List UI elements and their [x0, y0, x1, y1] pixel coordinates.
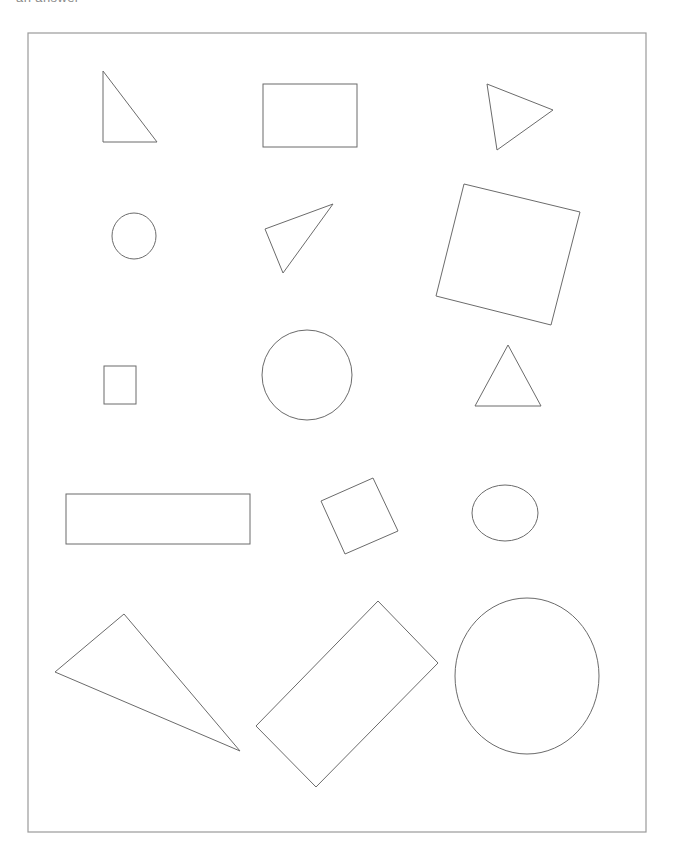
shape-rectangle-large-rotated: [256, 601, 438, 787]
shapes-worksheet-page: an answer: [0, 0, 675, 859]
shape-triangle-pointing-right: [487, 84, 553, 150]
shape-square-small-rotated: [321, 478, 398, 554]
shape-rectangle-horizontal-medium: [263, 84, 357, 147]
shape-circle-small: [112, 213, 156, 259]
shapes-svg: [0, 0, 675, 859]
shape-rectangle-small-vertical: [104, 366, 136, 404]
figure-canvas: [0, 0, 675, 859]
shape-triangle-isosceles-upright: [475, 345, 541, 406]
shape-circle-large: [262, 330, 352, 420]
page-border-rectangle: [28, 33, 646, 832]
shape-ellipse-large: [455, 598, 599, 754]
shape-right-triangle-small: [103, 71, 157, 142]
shape-rectangle-wide-flat: [66, 494, 250, 544]
shape-ellipse-small: [472, 485, 538, 541]
shape-triangle-large-scalene: [55, 614, 240, 751]
shape-triangle-obtuse-tilted: [265, 204, 333, 273]
shape-square-large-rotated: [436, 184, 580, 325]
